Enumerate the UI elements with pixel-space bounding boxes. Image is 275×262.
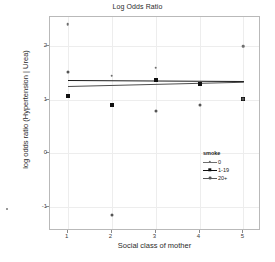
x-axis-title: Social class of mother	[49, 241, 260, 250]
data-point	[110, 213, 113, 216]
gridline-horizontal	[50, 100, 259, 101]
gridline-horizontal	[50, 46, 259, 47]
gridline-horizontal	[50, 207, 259, 208]
data-point	[66, 70, 69, 73]
plot-panel	[49, 16, 260, 230]
data-point	[154, 109, 157, 112]
gridline-vertical	[68, 17, 69, 229]
legend-item[interactable]: 0	[203, 158, 249, 166]
legend-item-label: 20+	[218, 175, 227, 181]
data-point	[242, 45, 245, 48]
data-point	[154, 78, 158, 82]
legend-title: smoke	[203, 150, 249, 156]
data-point	[66, 23, 69, 26]
x-tick-label: 1	[60, 233, 74, 239]
x-tick-label: 2	[104, 233, 118, 239]
legend-key-icon	[203, 166, 217, 174]
gridline-vertical	[112, 17, 113, 229]
x-tick-label: 5	[235, 233, 249, 239]
data-point	[66, 94, 70, 98]
legend-item-label: 0	[218, 159, 221, 165]
legend-key-icon	[203, 174, 217, 182]
legend-item-label: 1-19	[218, 167, 229, 173]
stray-speck	[6, 208, 8, 210]
gridline-vertical	[156, 17, 157, 229]
legend-item[interactable]: 20+	[203, 174, 249, 182]
data-point	[198, 104, 201, 107]
chart-container: Log Odds Ratio -101212345 Social class o…	[0, 0, 275, 262]
data-point	[154, 67, 157, 70]
y-tick-label: -1	[25, 203, 47, 209]
legend-entries: 01-1920+	[203, 158, 249, 182]
x-tick-label: 4	[192, 233, 206, 239]
data-point	[242, 97, 245, 100]
legend: smoke 01-1920+	[203, 150, 249, 182]
data-point	[110, 103, 114, 107]
legend-key-icon	[203, 158, 217, 166]
gridline-vertical	[200, 17, 201, 229]
y-axis-title: log odds ratio (Hypertension | Urea)	[21, 25, 30, 195]
x-tick-label: 3	[148, 233, 162, 239]
chart-title: Log Odds Ratio	[0, 3, 275, 10]
data-point	[110, 75, 113, 78]
legend-item[interactable]: 1-19	[203, 166, 249, 174]
gridline-vertical	[243, 17, 244, 229]
data-point	[198, 82, 202, 86]
